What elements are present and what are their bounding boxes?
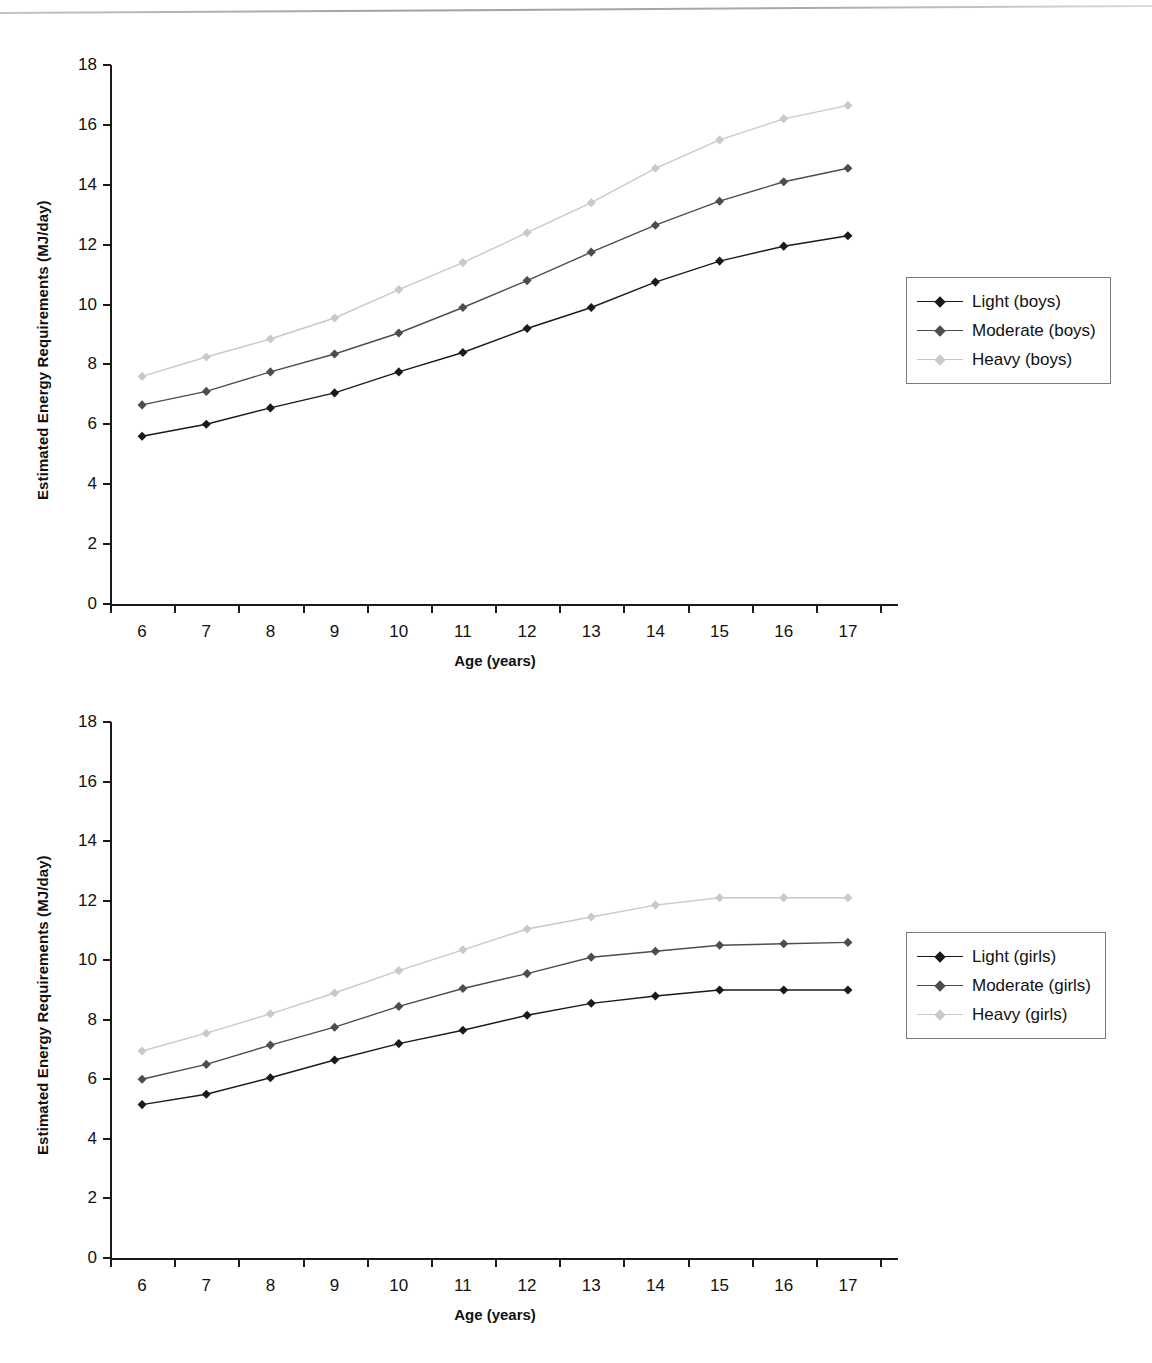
series-marker (587, 198, 596, 207)
series-marker (651, 164, 660, 173)
series-line (142, 236, 848, 437)
series-line (142, 105, 848, 376)
series-marker (458, 348, 467, 357)
series-marker (202, 1060, 211, 1069)
series-marker (138, 1100, 147, 1109)
legend-swatch-icon (917, 950, 963, 964)
plot-area-girls: Estimated Energy Requirements (MJ/day) A… (0, 697, 1152, 1322)
series-marker (523, 324, 532, 333)
series-marker (266, 403, 275, 412)
series-marker (138, 432, 147, 441)
series-marker (715, 893, 724, 902)
series-line (142, 168, 848, 405)
series-marker (651, 991, 660, 1000)
series-marker (394, 328, 403, 337)
legend-boys[interactable]: Light (boys)Moderate (boys)Heavy (boys) (906, 277, 1111, 384)
series-marker (779, 242, 788, 251)
scan-artifact-line (0, 8, 1152, 18)
series-marker (330, 1023, 339, 1032)
legend-swatch-icon (917, 324, 963, 338)
legend-item-label: Moderate (girls) (972, 976, 1091, 996)
series-marker (715, 135, 724, 144)
series-marker (330, 388, 339, 397)
series-marker (587, 303, 596, 312)
series-marker (458, 945, 467, 954)
series-marker (523, 228, 532, 237)
legend-item-label: Moderate (boys) (972, 321, 1096, 341)
legend-item[interactable]: Light (girls) (917, 942, 1091, 971)
series-marker (266, 367, 275, 376)
series-marker (202, 352, 211, 361)
series-marker (779, 114, 788, 123)
series-marker (458, 984, 467, 993)
series-marker (458, 303, 467, 312)
series-marker (394, 966, 403, 975)
series-marker (651, 278, 660, 287)
series-marker (779, 939, 788, 948)
legend-item[interactable]: Light (boys) (917, 287, 1096, 316)
series-marker (843, 164, 852, 173)
series-marker (651, 221, 660, 230)
plot-area-boys: Estimated Energy Requirements (MJ/day) A… (0, 40, 1152, 665)
series-marker (843, 985, 852, 994)
series-marker (523, 1011, 532, 1020)
series-marker (202, 1029, 211, 1038)
series-marker (715, 941, 724, 950)
series-marker (330, 349, 339, 358)
series-marker (843, 938, 852, 947)
series-marker (330, 1055, 339, 1064)
legend-item-label: Heavy (boys) (972, 350, 1072, 370)
series-marker (330, 313, 339, 322)
series-marker (587, 953, 596, 962)
series-marker (523, 924, 532, 933)
series-marker (779, 985, 788, 994)
chart-boys: Estimated Energy Requirements (MJ/day) A… (0, 40, 1152, 665)
series-marker (523, 276, 532, 285)
series-marker (587, 912, 596, 921)
series-marker (394, 285, 403, 294)
legend-item[interactable]: Heavy (girls) (917, 1000, 1091, 1029)
series-marker (458, 1026, 467, 1035)
series-marker (394, 1039, 403, 1048)
series-marker (651, 901, 660, 910)
legend-swatch-icon (917, 295, 963, 309)
series-marker (715, 257, 724, 266)
chart-girls: Estimated Energy Requirements (MJ/day) A… (0, 697, 1152, 1322)
legend-item[interactable]: Heavy (boys) (917, 345, 1096, 374)
series-marker (266, 1073, 275, 1082)
series-marker (266, 1041, 275, 1050)
legend-item-label: Heavy (girls) (972, 1005, 1067, 1025)
legend-item[interactable]: Moderate (girls) (917, 971, 1091, 1000)
series-marker (394, 1002, 403, 1011)
series-marker (138, 372, 147, 381)
legend-item-label: Light (girls) (972, 947, 1056, 967)
series-line (142, 990, 848, 1105)
series-marker (843, 893, 852, 902)
series-marker (138, 400, 147, 409)
series-marker (394, 367, 403, 376)
legend-item-label: Light (boys) (972, 292, 1061, 312)
legend-swatch-icon (917, 1008, 963, 1022)
series-marker (779, 177, 788, 186)
series-marker (266, 334, 275, 343)
series-marker (587, 999, 596, 1008)
series-marker (715, 985, 724, 994)
series-marker (523, 969, 532, 978)
series-marker (843, 101, 852, 110)
series-marker (138, 1075, 147, 1084)
series-marker (458, 258, 467, 267)
legend-swatch-icon (917, 353, 963, 367)
series-marker (330, 988, 339, 997)
series-marker (715, 197, 724, 206)
series-line (142, 898, 848, 1051)
series-marker (266, 1009, 275, 1018)
series-marker (202, 420, 211, 429)
series-marker (651, 947, 660, 956)
series-line (142, 942, 848, 1079)
series-marker (202, 387, 211, 396)
legend-item[interactable]: Moderate (boys) (917, 316, 1096, 345)
series-marker (202, 1090, 211, 1099)
series-marker (138, 1046, 147, 1055)
series-marker (779, 893, 788, 902)
legend-girls[interactable]: Light (girls)Moderate (girls)Heavy (girl… (906, 932, 1106, 1039)
